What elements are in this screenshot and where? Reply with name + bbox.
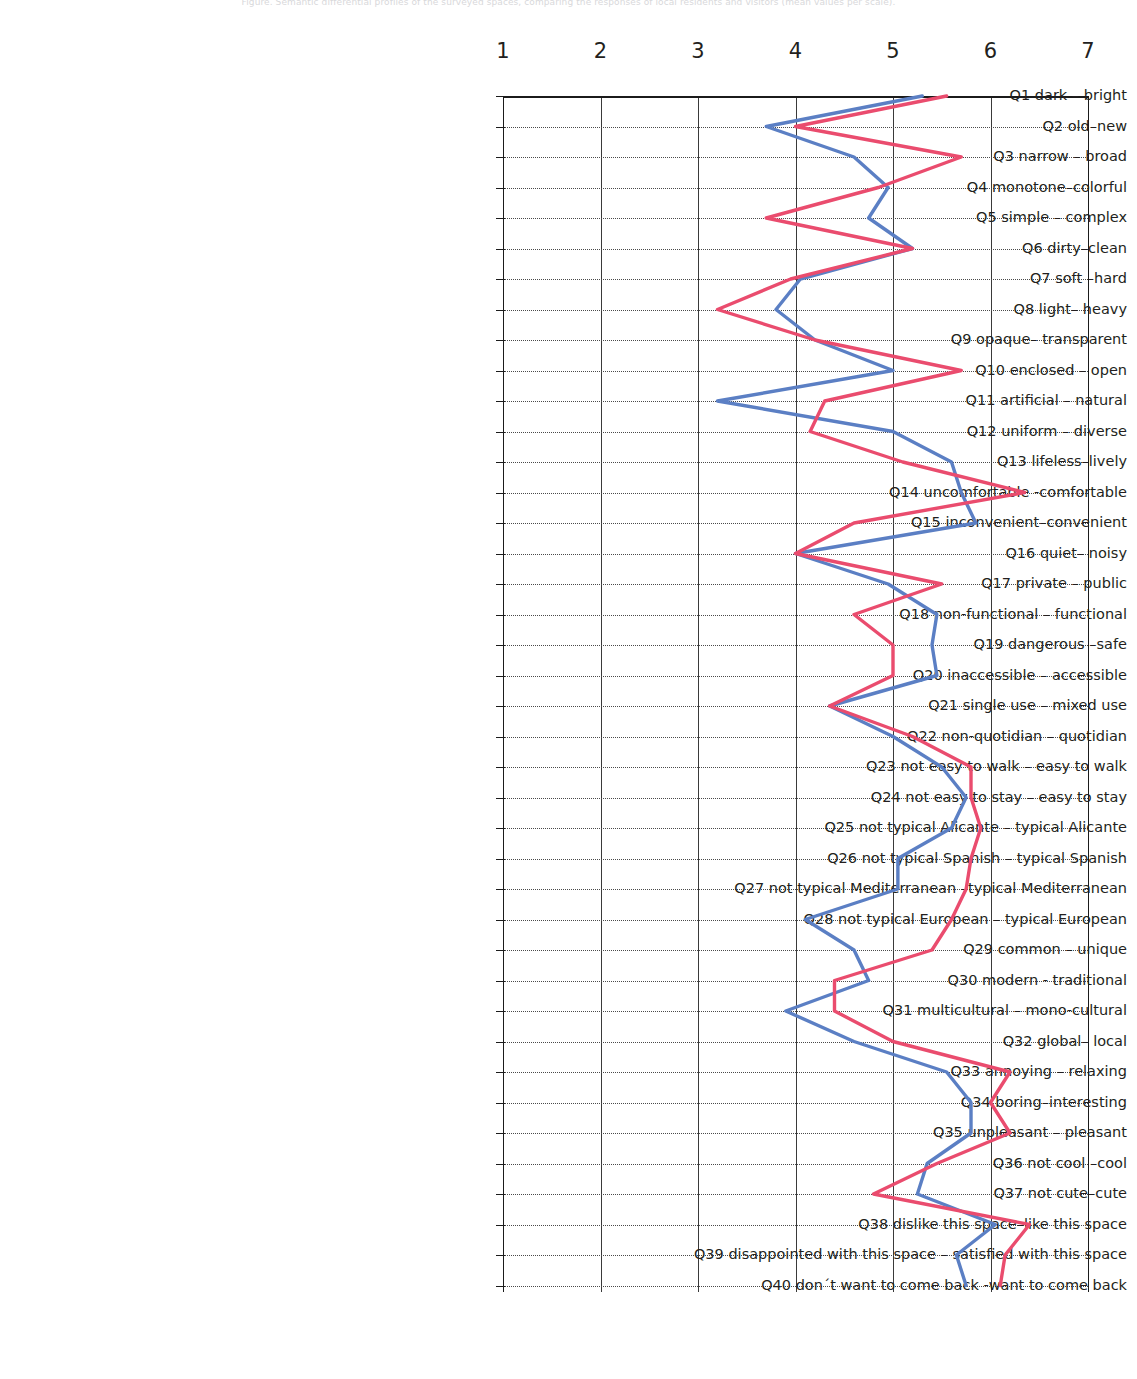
series-red — [718, 96, 1030, 1286]
semantic-differential-chart: 1234567 Q1 dark – brightQ2 old–newQ3 nar… — [0, 0, 1137, 1379]
series-polylines — [0, 0, 1137, 1379]
series-blue — [718, 96, 996, 1286]
chart-page: Figure. Semantic differential profiles o… — [0, 0, 1137, 1379]
